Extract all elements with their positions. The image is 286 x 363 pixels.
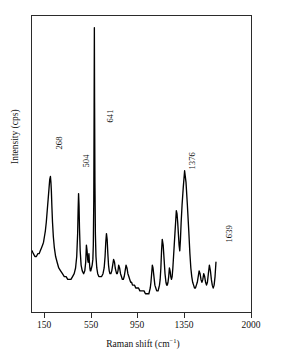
x-axis-title-close: ) bbox=[177, 339, 180, 349]
x-tick-label-550: 550 bbox=[84, 320, 98, 331]
raman-spectrum-figure: 268 504 641 1376 1639 150 550 950 1350 2… bbox=[0, 0, 286, 363]
x-tick-label-1350: 1350 bbox=[175, 320, 194, 331]
x-tick-mark-2000 bbox=[251, 313, 252, 318]
peak-label-1376: 1376 bbox=[188, 152, 197, 169]
peak-label-504: 504 bbox=[82, 154, 91, 167]
x-tick-mark-1350 bbox=[184, 313, 185, 318]
x-tick-mark-150 bbox=[44, 313, 45, 318]
x-axis-title-main: Raman shift (cm bbox=[106, 339, 169, 349]
spectrum-curve bbox=[32, 16, 251, 312]
x-axis-title-exponent: −1 bbox=[170, 337, 177, 344]
peak-label-268: 268 bbox=[55, 136, 64, 149]
peak-label-641: 641 bbox=[106, 109, 115, 122]
x-axis-title: Raman shift (cm−1) bbox=[0, 338, 286, 350]
x-tick-mark-950 bbox=[137, 313, 138, 318]
peak-label-1639: 1639 bbox=[225, 225, 234, 242]
plot-area: 268 504 641 1376 1639 bbox=[31, 15, 252, 313]
x-tick-label-150: 150 bbox=[37, 320, 51, 331]
x-tick-label-2000: 2000 bbox=[242, 320, 261, 331]
y-axis-title: Intensity (cps) bbox=[10, 109, 21, 164]
x-tick-label-950: 950 bbox=[130, 320, 144, 331]
x-tick-mark-550 bbox=[91, 313, 92, 318]
